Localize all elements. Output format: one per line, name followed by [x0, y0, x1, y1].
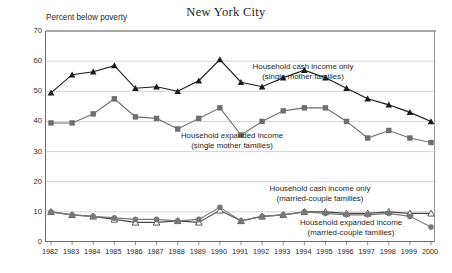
data-point-filled-square — [91, 111, 96, 116]
data-point-filled-circle — [238, 218, 244, 224]
x-tick-label: 2000 — [417, 248, 443, 255]
data-point-filled-square — [154, 116, 159, 121]
data-point-filled-circle — [90, 214, 96, 220]
y-tick-label: 30 — [26, 148, 42, 156]
data-point-filled-circle — [175, 218, 181, 224]
annotation-line-2: (married-couple families) — [300, 228, 402, 238]
y-tick-label: 40 — [26, 117, 42, 125]
data-point-filled-square — [386, 128, 391, 133]
data-point-filled-square — [428, 140, 433, 145]
data-point-filled-square — [217, 105, 222, 110]
annotation-expanded-single-mother: Household expanded income (single mother… — [181, 131, 283, 151]
annotation-cash-married-couple: Household cash income only (married-coup… — [270, 184, 371, 204]
data-point-filled-square — [323, 105, 328, 110]
data-point-filled-triangle — [343, 85, 350, 91]
data-point-filled-square — [175, 126, 180, 131]
series-line — [51, 60, 431, 122]
annotation-line-1: Household cash income only — [253, 62, 354, 72]
data-point-filled-triangle — [111, 62, 118, 68]
data-point-filled-circle — [112, 215, 118, 221]
annotation-line-1: Household expanded income — [300, 218, 402, 228]
data-point-filled-triangle — [217, 56, 224, 62]
data-point-filled-square — [281, 108, 286, 113]
data-point-filled-circle — [344, 212, 350, 218]
data-point-filled-circle — [407, 214, 413, 220]
y-axis-ticks: 010203040506070 — [24, 31, 42, 242]
data-point-filled-circle — [48, 209, 54, 215]
annotation-line-2: (single mother families) — [181, 141, 283, 151]
data-point-filled-circle — [69, 212, 75, 218]
data-point-filled-circle — [196, 217, 202, 223]
y-tick-label: 20 — [26, 178, 42, 186]
data-point-filled-triangle — [364, 96, 371, 102]
annotation-line-2: (married-couple families) — [270, 194, 371, 204]
series-0 — [48, 56, 435, 124]
data-point-filled-circle — [259, 214, 265, 220]
data-point-filled-square — [365, 135, 370, 140]
x-axis-ticks: 1982198319841985198619871988198919901991… — [45, 248, 435, 262]
y-tick-label: 60 — [26, 57, 42, 65]
annotation-expanded-married-couple: Household expanded income (married-coupl… — [300, 218, 402, 238]
y-axis-label: Percent below poverty — [46, 13, 127, 22]
data-point-filled-circle — [323, 211, 329, 217]
data-point-filled-square — [344, 119, 349, 124]
data-point-filled-circle — [428, 224, 434, 230]
data-point-filled-square — [133, 114, 138, 119]
annotation-line-1: Household expanded income — [181, 131, 283, 141]
y-tick-label: 10 — [26, 208, 42, 216]
data-point-filled-square — [196, 116, 201, 121]
data-point-filled-square — [259, 119, 264, 124]
data-point-filled-circle — [280, 212, 286, 218]
data-point-filled-circle — [302, 209, 308, 215]
data-point-filled-square — [48, 120, 53, 125]
data-point-filled-circle — [154, 217, 160, 223]
data-point-filled-circle — [133, 217, 139, 223]
chart-figure: New York City Percent below poverty 0102… — [0, 0, 452, 273]
data-point-filled-circle — [386, 211, 392, 217]
data-point-filled-circle — [365, 212, 371, 218]
y-tick-label: 70 — [26, 27, 42, 35]
data-point-filled-circle — [217, 205, 223, 211]
annotation-cash-single-mother: Household cash income only (single mothe… — [253, 62, 354, 82]
data-point-filled-square — [407, 135, 412, 140]
y-tick-label: 50 — [26, 87, 42, 95]
data-point-filled-square — [112, 96, 117, 101]
data-point-filled-square — [302, 105, 307, 110]
data-point-filled-square — [69, 120, 74, 125]
y-tick-label: 0 — [26, 238, 42, 246]
annotation-line-1: Household cash income only — [270, 184, 371, 194]
annotation-line-2: (single mother families) — [253, 72, 354, 82]
